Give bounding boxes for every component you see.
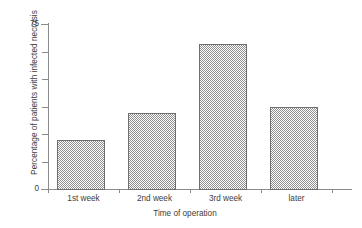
- y-tick-minor-62-5: [42, 52, 48, 53]
- x-tick-label-later: later: [261, 193, 332, 204]
- bar-3rd-week: [199, 44, 247, 190]
- y-tick-0: 0: [41, 189, 48, 190]
- bar-later: [270, 107, 318, 190]
- y-tick-minor-37-5: [42, 107, 48, 108]
- y-tick-minor-12-5: [42, 162, 48, 163]
- bar-1st-week: [57, 140, 105, 190]
- x-tick-4: [332, 189, 333, 193]
- x-axis-title: Time of operation: [46, 209, 324, 218]
- x-tick-label-1st-week: 1st week: [48, 193, 119, 204]
- x-tick-label-3rd-week: 3rd week: [190, 193, 261, 204]
- y-tick-label-75: 75: [30, 19, 39, 29]
- x-tick-label-2nd-week: 2nd week: [119, 193, 190, 204]
- y-tick-75: 75: [41, 24, 48, 25]
- y-tick-label-0: 0: [34, 184, 39, 194]
- y-tick-minor-50: [42, 79, 48, 80]
- bar-2nd-week: [128, 113, 176, 190]
- bar-chart: Percentage of patients with infected nec…: [0, 0, 362, 228]
- y-tick-minor-25: [42, 134, 48, 135]
- y-axis-line: [48, 23, 49, 190]
